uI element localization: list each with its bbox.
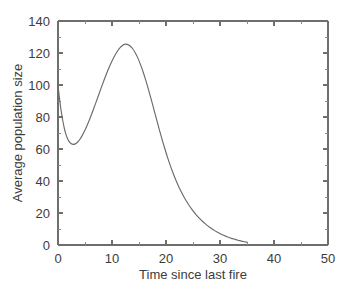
x-tick-label: 30 <box>213 251 227 266</box>
chart-figure: 01020304050020406080100120140 Time since… <box>0 0 350 289</box>
y-tick-label: 80 <box>36 110 50 125</box>
x-tick-label: 0 <box>54 251 61 266</box>
x-tick-label: 10 <box>105 251 119 266</box>
population-curve <box>58 44 247 242</box>
y-tick-label: 40 <box>36 174 50 189</box>
x-tick-label: 20 <box>159 251 173 266</box>
y-tick-label: 100 <box>28 78 50 93</box>
line-chart: 01020304050020406080100120140 Time since… <box>0 0 350 289</box>
y-tick-label: 20 <box>36 206 50 221</box>
y-tick-label: 140 <box>28 14 50 29</box>
x-tick-label: 40 <box>267 251 281 266</box>
y-tick-label: 0 <box>43 238 50 253</box>
y-tick-label: 60 <box>36 142 50 157</box>
y-tick-label: 120 <box>28 46 50 61</box>
y-axis-title: Average population size <box>10 64 25 203</box>
x-axis-title: Time since last fire <box>139 267 247 282</box>
x-tick-label: 50 <box>321 251 335 266</box>
axis-tick-labels: 01020304050020406080100120140 <box>28 14 335 267</box>
